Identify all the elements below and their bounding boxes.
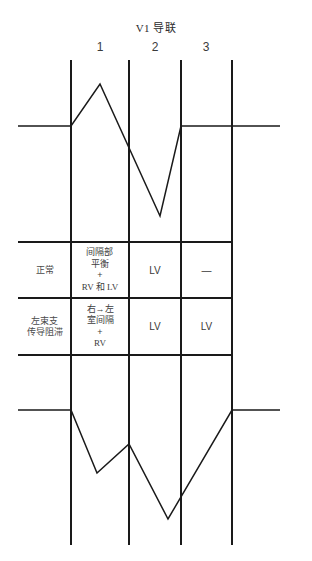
column-number-3: 3 [196, 40, 216, 54]
mechanism-label-row1: 间隔部 平衡 + RV 和 LV [82, 247, 118, 293]
value-col3-row2: LV [201, 321, 213, 332]
mechanism-line-2: 平衡 [91, 259, 109, 269]
table-cell-col2-row2: LV [129, 298, 181, 355]
column-number-1: 1 [90, 40, 110, 54]
ecg-lbbb-diagram: V1 导联 1 2 3 正常 间隔部 平衡 + RV 和 LV LV — 左束支… [0, 0, 312, 561]
normal-v1-complex-trace [18, 84, 280, 216]
mechanism2-line-3: + [97, 327, 102, 337]
table-cell-condition-row1: 正常 [18, 242, 71, 298]
lbbb-v1-complex-trace [18, 410, 280, 519]
mechanism2-line-4: RV [94, 338, 106, 348]
table-cell-mechanism-row1: 间隔部 平衡 + RV 和 LV [71, 242, 129, 298]
mechanism-line-1: 间隔部 [86, 247, 113, 257]
table-cell-mechanism-row2: 右→左 室间隔 + RV [71, 298, 129, 355]
mechanism-label-row2: 右→左 室间隔 + RV [87, 304, 114, 350]
table-cell-col3-row2: LV [181, 298, 232, 355]
table-cell-condition-row2: 左束支 传导阻滞 [18, 298, 71, 355]
condition-label-row2: 左束支 传导阻滞 [27, 316, 63, 338]
bottom-waveform-group [18, 410, 280, 519]
mechanism-line-3: + [97, 270, 102, 280]
top-waveform-group [18, 84, 280, 216]
mechanism-line-4: RV 和 LV [82, 282, 118, 292]
value-col2-row1: LV [149, 265, 161, 276]
condition-line-1: 左束支 [31, 316, 58, 326]
table-cell-col2-row1: LV [129, 242, 181, 298]
column-number-2: 2 [145, 40, 165, 54]
mechanism2-line-1: 右→左 [87, 304, 114, 314]
value-col2-row2: LV [149, 321, 161, 332]
condition-label-row1: 正常 [36, 265, 54, 276]
condition-line-2: 传导阻滞 [27, 327, 63, 337]
mechanism2-line-2: 室间隔 [87, 315, 114, 325]
page-title: V1 导联 [0, 19, 312, 35]
table-cell-col3-row1: — [181, 242, 232, 298]
value-col3-row1: — [202, 265, 212, 276]
